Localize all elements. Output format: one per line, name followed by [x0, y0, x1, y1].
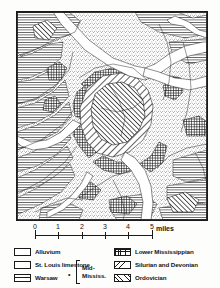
- scale-tick-3: [105, 232, 106, 239]
- scale-bar-line: [35, 235, 152, 236]
- scale-tick-1: [58, 232, 59, 239]
- scale-tick-2: [82, 232, 83, 239]
- legend-label-lower-mississippian: Lower Mississippian: [135, 248, 194, 256]
- legend-column-left: Alluvium St. Louis limestone Warsaw • Mi…: [14, 246, 110, 283]
- legend-swatch-warsaw: [14, 274, 31, 282]
- scale-tick-0: [35, 230, 36, 239]
- map-frame: [16, 11, 208, 221]
- scale-unit-label: miles: [156, 224, 174, 233]
- scale-label-0: 0: [33, 223, 37, 231]
- legend-bracket-line2: Mississ.: [82, 272, 106, 280]
- legend-swatch-st-louis-limestone: [14, 261, 31, 269]
- scale-bar: 0 1 2 3 4 5 miles: [16, 224, 206, 242]
- scale-label-5: 5: [150, 223, 154, 231]
- legend-swatch-lower-mississippian: [114, 248, 131, 256]
- scale-label-3: 3: [103, 223, 107, 231]
- legend-bracket-mid-mississippian: • Mid- Mississ.: [76, 258, 122, 285]
- legend-swatch-alluvium: [14, 248, 31, 256]
- legend-bracket-text: Mid- Mississ.: [82, 264, 106, 280]
- scale-tick-5: [152, 230, 153, 239]
- scale-label-4: 4: [126, 223, 130, 231]
- legend-bracket-marker: •: [68, 271, 70, 278]
- legend-item-ordovician: Ordovician: [114, 272, 210, 283]
- legend-item-silurian-devonian: Silurian and Devonian: [114, 259, 210, 270]
- legend-label-ordovician: Ordovician: [135, 274, 166, 282]
- legend-item-lower-mississippian: Lower Mississippian: [114, 246, 210, 257]
- legend-label-silurian-devonian: Silurian and Devonian: [135, 261, 198, 269]
- legend-item-alluvium: Alluvium: [14, 246, 110, 257]
- legend-label-warsaw: Warsaw: [35, 274, 58, 282]
- scale-label-2: 2: [80, 223, 84, 231]
- scale-label-1: 1: [56, 223, 60, 231]
- legend-bracket-shape: [76, 260, 80, 284]
- legend: Alluvium St. Louis limestone Warsaw • Mi…: [14, 246, 214, 286]
- legend-label-alluvium: Alluvium: [35, 248, 60, 256]
- legend-column-right: Lower Mississippian Silurian and Devonia…: [114, 246, 210, 283]
- legend-bracket-line1: Mid-: [82, 264, 106, 272]
- scale-tick-4: [128, 232, 129, 239]
- map-canvas: [17, 12, 207, 220]
- geologic-map-figure: 0 1 2 3 4 5 miles Alluvium St. Louis lim…: [0, 0, 220, 288]
